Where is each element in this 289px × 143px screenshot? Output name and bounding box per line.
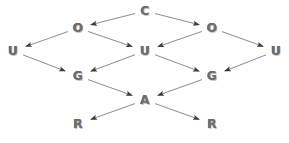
- node-g1[interactable]: G: [69, 68, 87, 84]
- diagram-canvas: COOUUUGGARR: [0, 0, 289, 143]
- node-o1[interactable]: O: [69, 20, 87, 36]
- node-u3[interactable]: U: [267, 43, 285, 59]
- node-g2[interactable]: G: [203, 68, 221, 84]
- edge-c-to-o1: [91, 14, 135, 25]
- edge-g2-to-a: [158, 80, 202, 96]
- node-u2[interactable]: U: [136, 43, 154, 59]
- edge-c-to-o2: [155, 14, 199, 25]
- node-c[interactable]: C: [136, 3, 154, 19]
- edge-o2-to-u3: [222, 32, 263, 47]
- edge-o2-to-u2: [158, 31, 202, 46]
- node-a[interactable]: A: [136, 92, 154, 108]
- node-o2[interactable]: O: [203, 20, 221, 36]
- edge-g1-to-a: [88, 80, 132, 96]
- edge-a-to-r1: [91, 104, 135, 120]
- node-r2[interactable]: R: [203, 116, 221, 132]
- edge-a-to-r2: [155, 104, 199, 120]
- edge-o1-to-u2: [88, 31, 132, 46]
- edge-layer: [0, 0, 289, 143]
- node-r1[interactable]: R: [69, 116, 87, 132]
- node-u1[interactable]: U: [4, 43, 22, 59]
- edge-u2-to-g1: [91, 55, 135, 71]
- edge-u3-to-g2: [225, 55, 266, 71]
- edge-u1-to-g1: [23, 55, 65, 71]
- edge-u2-to-g2: [155, 55, 199, 71]
- edge-o1-to-u1: [26, 32, 68, 47]
